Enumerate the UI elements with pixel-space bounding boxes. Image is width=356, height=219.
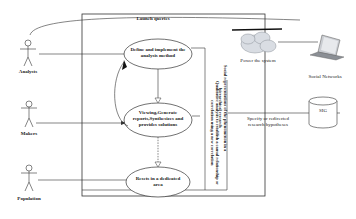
actor-label-makers: Makers <box>8 131 50 137</box>
use-case-define-label: Define and implement the analysis method <box>130 47 186 59</box>
cloud-bar <box>232 29 282 30</box>
arrow-head-icon <box>155 162 161 167</box>
actor-label-analysts: Analysts <box>8 69 48 75</box>
annotation-social: Social representations of the phenomenon… <box>216 64 228 152</box>
cloud-label: Power the system <box>238 58 278 64</box>
actor-population-icon <box>21 165 37 191</box>
laptop-label: Social Networks <box>300 74 350 80</box>
arrow-head-icon <box>155 98 161 103</box>
use-case-resets-label: Resets in a dedicated area <box>132 176 184 188</box>
use-case-viewing-label: Viewing,Generate reports,Synthesizes and… <box>128 110 188 128</box>
system-boundary-title: Launch queries <box>118 16 188 22</box>
actor-makers-icon <box>21 101 37 127</box>
actor-label-population: Population <box>4 196 54 202</box>
database-label: SIG <box>309 108 337 114</box>
define-to-annotation <box>191 48 205 190</box>
cloud-icon <box>241 32 276 53</box>
laptop-icon <box>310 35 344 60</box>
actor-analysts-icon <box>20 40 36 66</box>
arrow-head-icon <box>122 60 127 70</box>
database-link-label: Specify or redirected research hypothese… <box>240 116 296 128</box>
